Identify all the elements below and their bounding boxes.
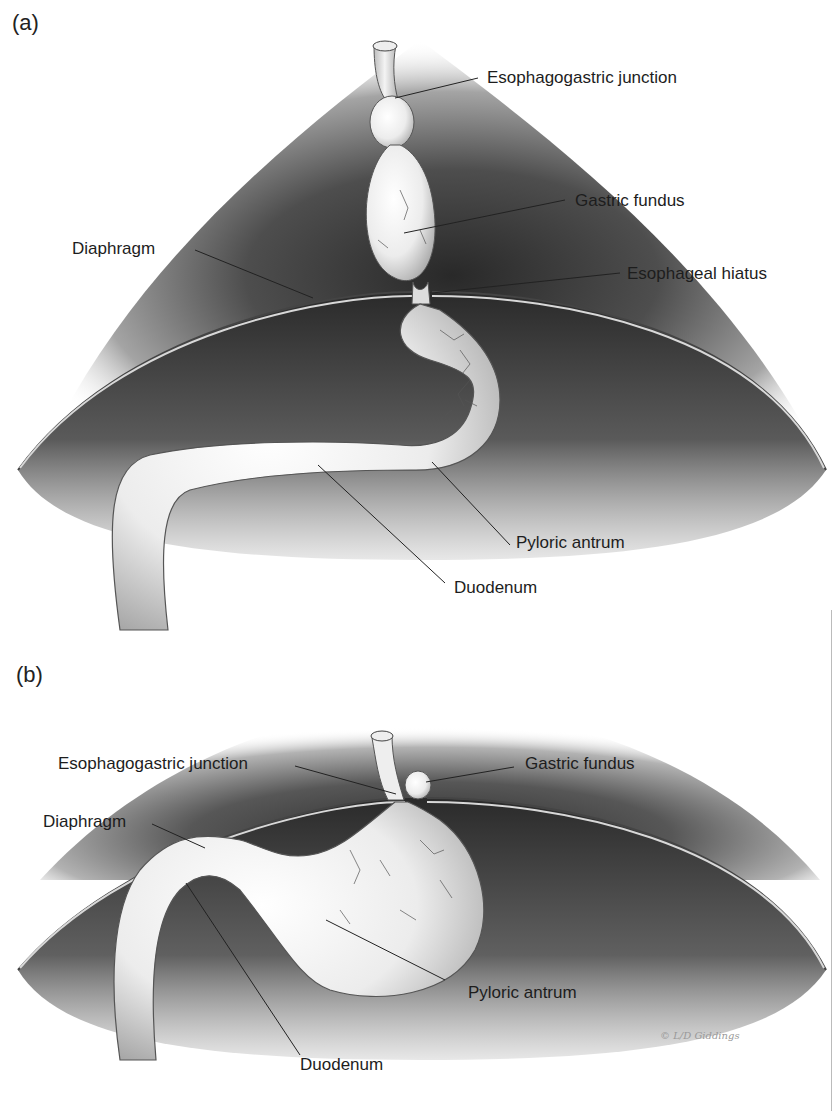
label-duodenum-b: Duodenum: [300, 1055, 383, 1075]
label-gastric-fundus-a: Gastric fundus: [575, 191, 685, 211]
panel-a: (a) Esophagogastric junction Gastric fun…: [0, 0, 840, 650]
label-pyloric-antrum-a: Pyloric antrum: [516, 533, 625, 553]
label-pyloric-antrum-b: Pyloric antrum: [468, 983, 577, 1003]
label-gastric-fundus-b: Gastric fundus: [525, 754, 635, 774]
label-diaphragm-a: Diaphragm: [72, 239, 155, 259]
label-diaphragm-b: Diaphragm: [43, 812, 126, 832]
label-duodenum-a: Duodenum: [454, 578, 537, 598]
panel-label-b: (b): [16, 662, 43, 688]
label-esophageal-hiatus-a: Esophageal hiatus: [627, 264, 767, 284]
panel-label-a: (a): [12, 10, 39, 36]
label-esophagogastric-junction-a: Esophagogastric junction: [487, 68, 677, 88]
panel-b: (b) Esophagogastric junction Gastric fun…: [0, 650, 840, 1111]
stomach-illustration-b: [0, 650, 840, 1111]
label-esophagogastric-junction-b: Esophagogastric junction: [58, 754, 248, 774]
page-edge-line: [831, 610, 832, 1111]
artist-signature: © L/D Giddings: [660, 1030, 740, 1041]
stomach-illustration-a: [0, 0, 840, 650]
